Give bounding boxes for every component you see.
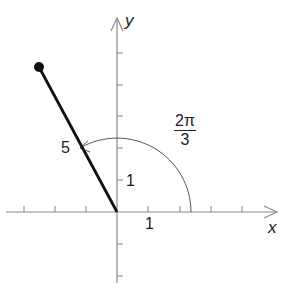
angle-denominator: 3 [174,131,196,148]
y-unit-label: 1 [126,173,135,189]
x-axis [6,206,277,218]
angle-label: 2π 3 [174,113,196,148]
vector [34,62,117,212]
x-axis-label: x [268,219,277,236]
diagram-graphics [0,0,290,294]
vector-length-label: 5 [61,140,70,156]
y-axis [111,18,123,283]
polar-diagram: y x 1 1 5 2π 3 [0,0,290,294]
y-axis-label: y [125,12,134,29]
vector-endpoint-dot [34,62,44,72]
angle-numerator: 2π [174,113,196,131]
x-unit-label: 1 [145,216,154,232]
